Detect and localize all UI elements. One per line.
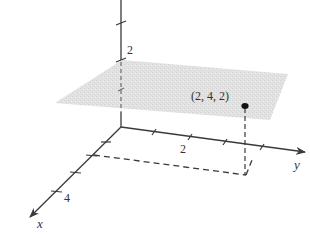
x-axis-tick [70,172,81,173]
z-axis-tick-label: 2 [127,43,133,57]
y-axis-tick [223,139,227,145]
x-axis-tick [51,191,62,192]
y-axis [121,127,305,152]
y-axis-tick-label: 2 [180,142,186,156]
x-axis-tick-label: 4 [64,191,70,205]
3d-plane-diagram: 2 2 y 4 x (2, 4, 2) [0,0,310,238]
y-axis-label: y [292,157,300,172]
plane-z-equals-2 [55,60,288,120]
x-axis-label: x [36,216,43,231]
projection-dashed-y [246,160,252,175]
point-label: (2, 4, 2) [191,89,229,103]
point-marker [241,103,248,109]
projection-dashed-x [94,155,246,175]
